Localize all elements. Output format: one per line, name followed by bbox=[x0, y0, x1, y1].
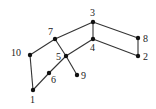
node-label-5: 5 bbox=[56, 51, 61, 62]
node-label-9: 9 bbox=[81, 70, 86, 81]
node-9 bbox=[75, 73, 79, 77]
edge-1-10 bbox=[30, 55, 33, 90]
node-label-1: 1 bbox=[30, 94, 35, 105]
edge-3-8 bbox=[93, 22, 138, 38]
edge-4-5 bbox=[66, 39, 93, 56]
node-label-8: 8 bbox=[143, 33, 148, 44]
edge-2-4 bbox=[93, 39, 138, 56]
edge-6-1 bbox=[33, 73, 49, 90]
edge-10-7 bbox=[30, 39, 55, 55]
node-label-6: 6 bbox=[51, 74, 56, 85]
node-3 bbox=[91, 20, 95, 24]
node-5 bbox=[64, 54, 68, 58]
node-label-2: 2 bbox=[143, 51, 148, 62]
node-8 bbox=[136, 36, 140, 40]
graph-nodes bbox=[28, 20, 140, 92]
node-1 bbox=[31, 88, 35, 92]
edge-7-3 bbox=[55, 22, 93, 39]
node-label-10: 10 bbox=[11, 47, 21, 58]
node-label-7: 7 bbox=[48, 26, 53, 37]
node-2 bbox=[136, 54, 140, 58]
node-10 bbox=[28, 53, 32, 57]
node-label-4: 4 bbox=[90, 42, 95, 53]
edge-5-9 bbox=[66, 56, 77, 75]
graph-diagram: 12345678910 bbox=[0, 0, 156, 109]
node-7 bbox=[53, 37, 57, 41]
node-4 bbox=[91, 37, 95, 41]
node-label-3: 3 bbox=[90, 7, 95, 18]
